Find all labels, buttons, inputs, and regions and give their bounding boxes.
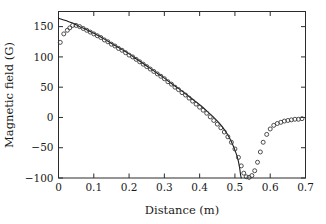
x-tick-label: 0.5 bbox=[227, 181, 244, 193]
x-tick-label: 0.7 bbox=[297, 181, 314, 193]
x-tick-label: 0.4 bbox=[191, 181, 208, 193]
figure-container: 00.10.20.30.40.50.60.7 −100−50050100150 … bbox=[0, 0, 326, 224]
y-tick-label: 0 bbox=[47, 111, 54, 123]
x-tick-label: 0 bbox=[55, 181, 62, 193]
x-axis-title: Distance (m) bbox=[145, 203, 219, 217]
x-tick-label: 0.2 bbox=[121, 181, 138, 193]
magnetic-field-vs-distance-chart: 00.10.20.30.40.50.60.7 −100−50050100150 … bbox=[0, 0, 326, 224]
y-tick-label: 150 bbox=[33, 20, 53, 32]
x-tick-label: 0.1 bbox=[85, 181, 102, 193]
y-tick-label: −50 bbox=[31, 141, 53, 153]
x-tick-label: 0.3 bbox=[156, 181, 173, 193]
y-tick-label: −100 bbox=[25, 172, 54, 184]
x-tick-label: 0.6 bbox=[262, 181, 279, 193]
y-axis-title: Magnetic field (G) bbox=[2, 42, 16, 148]
y-tick-label: 50 bbox=[40, 81, 53, 93]
y-tick-label: 100 bbox=[33, 51, 53, 63]
